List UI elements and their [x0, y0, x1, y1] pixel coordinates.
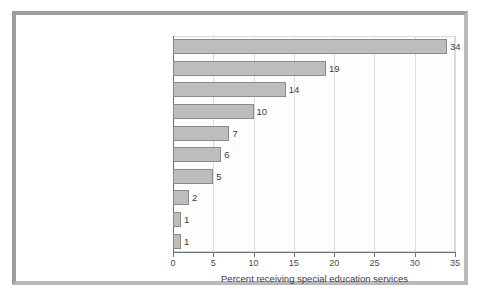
bar-row: Specific learning disability34: [0, 36, 495, 58]
x-axis-tick-label: 0: [170, 258, 175, 268]
bar: [173, 39, 447, 54]
x-axis-tick: [334, 253, 335, 257]
bar-value-label: 2: [192, 190, 197, 205]
bar-value-label: 14: [289, 82, 300, 97]
x-axis-tick-label: 30: [410, 258, 420, 268]
bar-row: Speech or language impairment19: [0, 58, 495, 80]
bar: [173, 169, 213, 184]
bar-value-label: 10: [257, 104, 268, 119]
bar-value-label: 1: [184, 212, 189, 227]
bar-row: Intellectual disability6: [0, 144, 495, 166]
x-axis-tick: [455, 253, 456, 257]
x-axis-tick-label: 20: [329, 258, 339, 268]
x-axis-line: [173, 252, 456, 253]
bar-row: Developmental delay7: [0, 122, 495, 144]
bar: [173, 126, 229, 141]
x-axis-tick: [374, 253, 375, 257]
bar-row: Emotional disturbance5: [0, 166, 495, 188]
bar-value-label: 5: [216, 169, 221, 184]
x-axis-tick: [294, 253, 295, 257]
x-axis-title: Percent receiving special education serv…: [173, 273, 456, 284]
bar-row: Autism spectrum disorder10: [0, 101, 495, 123]
bar: [173, 234, 181, 249]
x-axis-tick-label: 25: [369, 258, 379, 268]
bar: [173, 82, 286, 97]
bar: [173, 212, 181, 227]
bar: [173, 104, 254, 119]
x-axis-tick-label: 5: [211, 258, 216, 268]
x-axis-tick-label: 35: [450, 258, 460, 268]
bar-row: Multiple disabilities2: [0, 187, 495, 209]
bar: [173, 190, 189, 205]
bar-row: Hearing impairment1: [0, 209, 495, 231]
bar-value-label: 6: [224, 147, 229, 162]
x-axis-tick-label: 15: [289, 258, 299, 268]
bar-row: Orthopedic impairment1: [0, 230, 495, 252]
bar: [173, 61, 326, 76]
bar-value-label: 19: [329, 61, 340, 76]
x-axis-tick: [173, 253, 174, 257]
x-axis-tick: [213, 253, 214, 257]
bar-value-label: 7: [232, 126, 237, 141]
x-axis-tick-label: 10: [249, 258, 259, 268]
bar-value-label: 1: [184, 234, 189, 249]
bar: [173, 147, 221, 162]
bar-value-label: 34: [450, 39, 461, 54]
bar-chart: 05101520253035 Specific learning disabil…: [0, 0, 495, 307]
x-axis-tick: [415, 253, 416, 257]
bar-row: Other health impairment14: [0, 79, 495, 101]
x-axis-tick: [254, 253, 255, 257]
